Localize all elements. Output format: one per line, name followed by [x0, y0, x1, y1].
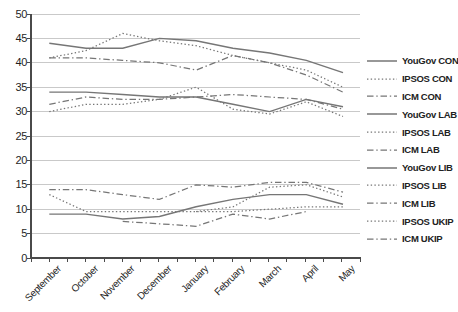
legend-label: YouGov CON [402, 55, 458, 66]
legend-item-ipsos-con: IPSOS CON [367, 70, 458, 88]
legend-line-sample [367, 165, 397, 171]
series-line-icm-con [49, 56, 343, 93]
legend-line-sample [367, 218, 397, 224]
y-axis-tick-label: 45 [0, 32, 27, 45]
legend-label: YouGov LIB [402, 162, 453, 173]
legend-item-yougov-con: YouGov CON [367, 52, 458, 70]
legend-line-sample [367, 147, 397, 153]
legend-label: IPSOS LAB [402, 127, 451, 138]
poll-trend-line-chart: 05101520253035404550 SeptemberOctoberNov… [0, 0, 458, 312]
y-axis-tick-label: 0 [0, 252, 27, 265]
legend-line-sample [367, 93, 397, 99]
legend-label: ICM CON [402, 91, 441, 102]
legend-label: ICM LIB [402, 198, 435, 209]
legend-line-sample [367, 200, 397, 206]
legend-item-yougov-lib: YouGov LIB [367, 159, 458, 177]
legend-label: ICM LAB [402, 144, 439, 155]
series-line-yougov-lab [49, 92, 343, 112]
y-axis-tick-label: 20 [0, 154, 27, 167]
y-axis-tick-label: 50 [0, 8, 27, 21]
legend-label: ICM UKIP [402, 233, 442, 244]
legend-item-ipsos-lib: IPSOS LIB [367, 177, 458, 195]
series-line-icm-ukip [123, 212, 307, 227]
y-axis-tick-label: 40 [0, 56, 27, 69]
series-line-yougov-lib [49, 195, 343, 219]
legend-label: IPSOS CON [402, 73, 452, 84]
legend-line-sample [367, 182, 397, 188]
legend-line-sample [367, 129, 397, 135]
legend-item-icm-lab: ICM LAB [367, 141, 458, 159]
legend-item-icm-lib: ICM LIB [367, 194, 458, 212]
legend-line-sample [367, 76, 397, 82]
legend-label: IPSOS LIB [402, 180, 446, 191]
legend-item-icm-ukip: ICM UKIP [367, 230, 458, 248]
legend-item-ipsos-ukip: IPSOS UKIP [367, 212, 458, 230]
legend-line-sample [367, 58, 397, 64]
legend-line-sample [367, 236, 397, 242]
legend: YouGov CONIPSOS CONICM CONYouGov LABIPSO… [367, 52, 458, 248]
legend-item-icm-con: ICM CON [367, 88, 458, 106]
series-line-ipsos-con [49, 34, 343, 88]
legend-item-ipsos-lab: IPSOS LAB [367, 123, 458, 141]
y-axis-tick-label: 25 [0, 130, 27, 143]
legend-item-yougov-lab: YouGov LAB [367, 105, 458, 123]
y-axis-tick-label: 5 [0, 227, 27, 240]
y-axis-tick-label: 35 [0, 81, 27, 94]
series-line-yougov-con [49, 38, 343, 72]
y-axis-tick-label: 30 [0, 105, 27, 118]
y-axis-tick-label: 15 [0, 178, 27, 191]
legend-line-sample [367, 111, 397, 117]
legend-label: IPSOS UKIP [402, 216, 453, 227]
legend-label: YouGov LAB [402, 109, 457, 120]
y-axis-tick-label: 10 [0, 203, 27, 216]
